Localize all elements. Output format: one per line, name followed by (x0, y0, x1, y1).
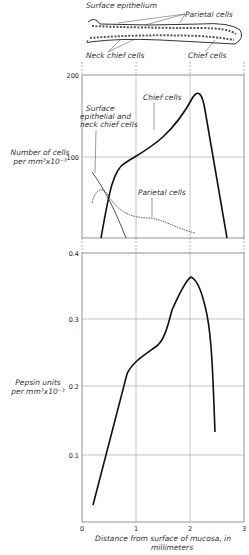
guide-lines (82, 62, 244, 253)
annot-chief-cells: Chief cells (143, 93, 182, 102)
x-axis-label-line2: millimeters (151, 543, 193, 552)
gland-diagram: Surface epithelium Parietal cells Neck c… (86, 1, 242, 60)
xtick-0: 0 (80, 525, 84, 533)
series-surface-neck (92, 172, 126, 238)
label-neck-chief-cells: Neck chief cells (86, 51, 145, 60)
annot-parietal-cells: Parietal cells (138, 188, 186, 197)
ytick-0.1: 0.1 (69, 452, 79, 460)
y-axis-label-line2: per mm³x10⁻³ (12, 157, 66, 166)
pepsin-chart: 0.4 0.3 0.2 0.1 0 1 2 3 Pepsin units per… (10, 250, 246, 552)
label-chief-cells: Chief cells (188, 51, 227, 60)
xtick-3: 3 (242, 525, 246, 533)
pepsin-y-label-line2: per mm³x10⁻³ (10, 387, 64, 396)
cells-chart: 200 100 Number of cells per mm³x10⁻³ Chi… (11, 72, 244, 238)
ytick-0.2: 0.2 (69, 383, 79, 391)
series-pepsin (93, 277, 215, 505)
y-axis-label-line1: Number of cells (11, 148, 70, 157)
pepsin-y-label-line1: Pepsin units (15, 378, 61, 387)
xtick-2: 2 (188, 525, 192, 533)
label-parietal-cells: Parietal cells (185, 10, 233, 19)
x-axis-label-line1: Distance from surface of mucosa, in (95, 534, 231, 543)
ytick-0.4: 0.4 (69, 250, 79, 258)
ytick-200: 200 (67, 72, 79, 80)
label-surface-epithelium: Surface epithelium (86, 1, 157, 10)
ytick-0.3: 0.3 (69, 316, 79, 324)
annot-surface-3: neck chief cells (80, 120, 138, 129)
xtick-1: 1 (134, 525, 138, 533)
figure: Surface epithelium Parietal cells Neck c… (0, 0, 249, 555)
